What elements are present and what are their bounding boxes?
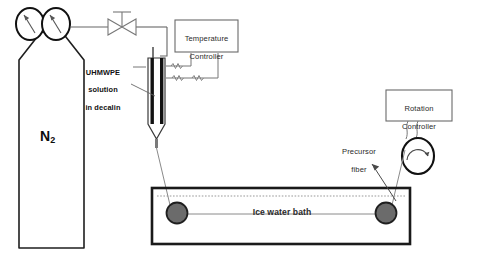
fiber-to-spool (392, 150, 405, 205)
heater-bar-left (151, 58, 154, 124)
temperature-controller-label-line1: Temperature (176, 35, 237, 44)
rotation-controller-label-line2: Controller (387, 123, 451, 132)
gas-supply-line (70, 27, 167, 58)
rotation-controller-label: Rotation Controller (387, 96, 451, 141)
spinning-column (148, 58, 165, 148)
gas-line-to-column (160, 27, 167, 56)
solution-label-line2: solution (74, 86, 132, 95)
nitrogen-cylinder-label: N2 (40, 128, 55, 145)
pressure-gauge-right (42, 8, 70, 40)
heater-bar-right (160, 58, 163, 124)
temperature-controller-label: Temperature Controller (176, 26, 237, 71)
roller-left (167, 203, 188, 224)
spinneret-nozzle (155, 139, 158, 148)
nitrogen-symbol: N (40, 128, 50, 144)
solution-label-line1: UHMWPE (74, 69, 132, 78)
nitrogen-subscript: 2 (50, 135, 55, 145)
roller-right (376, 203, 397, 224)
gas-valve[interactable] (108, 12, 136, 35)
pressure-gauge-left (16, 8, 44, 40)
solution-label-line3: in decalin (74, 104, 132, 113)
ice-water-bath-label: Ice water bath (232, 207, 332, 217)
solution-label: UHMWPE solution in decalin (74, 60, 132, 121)
precursor-fiber-label: Precursor fiber (330, 139, 388, 184)
diagram-canvas: Temperature Controller Rotation Controll… (0, 0, 477, 261)
precursor-fiber-label-line1: Precursor (330, 148, 388, 157)
spool-body (402, 138, 434, 174)
precursor-fiber-label-line2: fiber (330, 166, 388, 175)
winding-spool[interactable] (402, 138, 434, 174)
rotation-controller-label-line1: Rotation (387, 105, 451, 114)
temperature-controller-label-line2: Controller (176, 53, 237, 62)
